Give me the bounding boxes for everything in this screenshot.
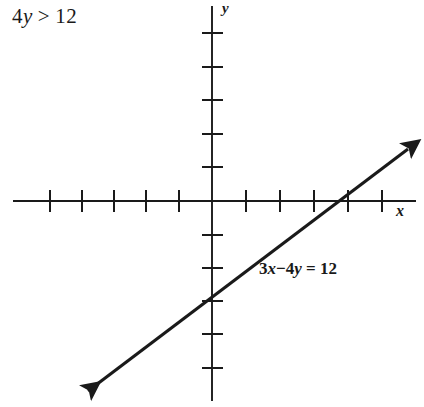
line-equation-label: 3x−4y = 12 — [259, 259, 337, 279]
x-axis-label: x — [396, 202, 404, 220]
figure-canvas: 4y>12 3x−4y = 12 y x — [0, 0, 424, 407]
inequality-right-side: 12 — [55, 4, 77, 28]
y-axis-label: y — [222, 0, 229, 17]
equation-coefficient-x: 3 — [259, 259, 268, 278]
line-3x-minus-4y-equals-12 — [88, 149, 408, 391]
equation-variable-y: y — [294, 259, 302, 278]
equation-coefficient-y: −4 — [276, 259, 294, 278]
y-axis — [202, 6, 223, 401]
x-axis — [13, 190, 416, 212]
inequality-variable: y — [23, 4, 33, 28]
inequality-statement: 4y>12 — [12, 4, 77, 29]
equation-right-side: = 12 — [302, 259, 337, 278]
coordinate-plane-graph — [0, 0, 424, 407]
inequality-relation-symbol: > — [33, 4, 55, 28]
inequality-coefficient: 4 — [12, 4, 23, 28]
equation-variable-x: x — [268, 259, 277, 278]
